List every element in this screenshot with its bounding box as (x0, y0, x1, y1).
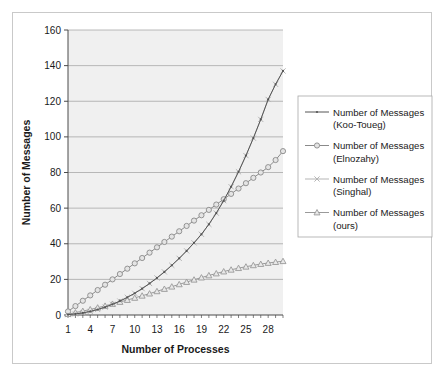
data-marker-circle (314, 143, 319, 148)
y-axis-tick-label: 20 (50, 274, 62, 285)
data-marker-circle (266, 165, 271, 170)
x-axis-tick-label: 19 (196, 324, 208, 335)
data-marker-dot (267, 98, 269, 100)
data-marker-circle (229, 191, 234, 196)
data-marker-circle (140, 255, 145, 260)
data-marker-dot (282, 70, 284, 72)
data-marker-dot (200, 233, 202, 235)
data-marker-dot (148, 282, 150, 284)
data-marker-circle (184, 223, 189, 228)
y-axis-tick-label: 100 (44, 131, 61, 142)
x-axis-tick-label: 16 (174, 324, 186, 335)
data-marker-dot (237, 171, 239, 173)
y-axis-tick-label: 40 (50, 238, 62, 249)
data-marker-dot (178, 257, 180, 259)
legend-label-line1: Number of Messages (333, 174, 424, 185)
data-marker-dot (252, 137, 254, 139)
data-marker-circle (236, 186, 241, 191)
data-marker-circle (251, 175, 256, 180)
chart-figure: 02040608010012014016014710131619222528Nu… (0, 0, 444, 379)
data-marker-dot (126, 296, 128, 298)
data-marker-circle (117, 271, 122, 276)
data-marker-dot (111, 303, 113, 305)
data-marker-dot (141, 288, 143, 290)
legend-label-line2: (Elnozahy) (333, 153, 379, 164)
x-axis-tick-label: 7 (110, 324, 116, 335)
x-axis-tick-label: 13 (151, 324, 163, 335)
data-marker-dot (223, 200, 225, 202)
data-marker-dot (74, 313, 76, 315)
y-axis-title: Number of Messages (20, 120, 32, 226)
data-marker-circle (147, 250, 152, 255)
x-axis-tick-label: 4 (87, 324, 93, 335)
data-marker-circle (280, 149, 285, 154)
data-marker-circle (177, 229, 182, 234)
legend-label-line1: Number of Messages (333, 107, 424, 118)
y-axis-tick-label: 80 (50, 167, 62, 178)
data-marker-dot (186, 250, 188, 252)
data-marker-dot (97, 308, 99, 310)
legend-label-line1: Number of Messages (333, 140, 424, 151)
data-marker-dot (274, 83, 276, 85)
x-axis-tick-label: 22 (218, 324, 230, 335)
data-marker-circle (154, 245, 159, 250)
x-axis-tick-label: 10 (129, 324, 141, 335)
data-marker-dot (104, 306, 106, 308)
data-marker-dot (215, 212, 217, 214)
data-marker-dot (208, 223, 210, 225)
data-marker-dot (134, 292, 136, 294)
x-axis-tick-label: 1 (65, 324, 71, 335)
data-marker-dot (156, 277, 158, 279)
legend-label-line2: (Singhal) (333, 186, 371, 197)
data-marker-circle (191, 218, 196, 223)
x-axis-tick-label: 28 (263, 324, 275, 335)
data-marker-dot (260, 118, 262, 120)
data-marker-dot (171, 264, 173, 266)
data-marker-dot (82, 312, 84, 314)
data-marker-circle (243, 181, 248, 186)
data-marker-circle (95, 287, 100, 292)
data-marker-circle (169, 234, 174, 239)
data-marker-circle (162, 239, 167, 244)
y-axis-tick-label: 140 (44, 60, 61, 71)
y-axis-tick-label: 60 (50, 203, 62, 214)
data-marker-circle (88, 293, 93, 298)
data-marker-circle (73, 303, 78, 308)
data-marker-circle (206, 207, 211, 212)
data-marker-circle (102, 282, 107, 287)
data-marker-dot (245, 154, 247, 156)
data-marker-dot (89, 310, 91, 312)
x-axis-title: Number of Processes (122, 343, 230, 355)
data-marker-dot (163, 271, 165, 273)
data-marker-circle (258, 170, 263, 175)
legend-label-line1: Number of Messages (333, 207, 424, 218)
data-marker-circle (80, 298, 85, 303)
data-marker-dot (67, 314, 69, 316)
data-marker-dot (119, 300, 121, 302)
data-marker-circle (65, 309, 70, 314)
data-marker-dot (316, 111, 318, 113)
data-marker-circle (132, 261, 137, 266)
data-marker-circle (199, 213, 204, 218)
data-marker-circle (125, 266, 130, 271)
data-marker-circle (110, 277, 115, 282)
data-marker-circle (273, 157, 278, 162)
data-marker-dot (193, 242, 195, 244)
legend-label-line2: (ours) (333, 220, 358, 231)
x-axis-tick-label: 25 (240, 324, 252, 335)
y-axis-tick-label: 160 (44, 25, 61, 36)
y-axis-tick-label: 120 (44, 96, 61, 107)
data-marker-dot (230, 186, 232, 188)
legend-label-line2: (Koo-Toueg) (333, 119, 386, 130)
chart-canvas: 02040608010012014016014710131619222528Nu… (0, 0, 444, 379)
data-marker-circle (214, 202, 219, 207)
y-axis-tick-label: 0 (55, 310, 61, 321)
